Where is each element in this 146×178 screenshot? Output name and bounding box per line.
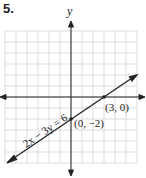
- y-axis-label: y: [66, 4, 73, 18]
- point-y-intercept-label: (0, −2): [74, 117, 104, 130]
- x-axis: [0, 95, 145, 100]
- x-axis-right-arrow-icon: [139, 95, 145, 100]
- y-axis-up-arrow-icon: [69, 21, 74, 27]
- x-axis-left-arrow-icon: [0, 95, 6, 100]
- point-y-intercept: [69, 117, 73, 121]
- coordinate-plane: y (3, 0) (0, −2) 2x − 3y = 6: [0, 0, 146, 178]
- y-axis-down-arrow-icon: [69, 170, 74, 176]
- line-arrow-upper-icon: [130, 75, 138, 81]
- line-arrow-lower-icon: [7, 156, 17, 164]
- point-x-intercept-label: (3, 0): [105, 101, 129, 114]
- y-axis: [69, 21, 74, 176]
- point-x-intercept: [102, 95, 106, 99]
